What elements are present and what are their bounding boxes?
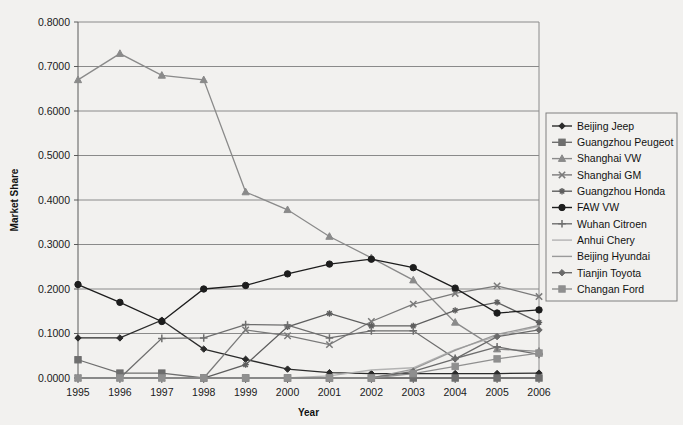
x-tick-label: 2004: [444, 386, 468, 398]
data-point: [494, 299, 500, 305]
series-layer: [74, 50, 543, 382]
y-tick-label: 0.2000: [38, 283, 70, 295]
data-point: [74, 76, 81, 83]
data-point: [452, 375, 458, 381]
data-point: [159, 375, 165, 381]
x-tick-label: 1997: [150, 386, 174, 398]
y-tick-label: 0.4000: [38, 194, 70, 206]
data-point: [368, 256, 374, 262]
x-axis-title: Year: [298, 407, 319, 418]
y-axis-title: Market Share: [9, 168, 20, 231]
legend-label: Beijing Hyundai: [577, 250, 650, 262]
series-line: [78, 320, 539, 373]
y-tick-label: 0.5000: [38, 149, 70, 161]
data-point: [284, 271, 290, 277]
market-share-line-chart: 0.00000.10000.20000.30000.40000.50000.60…: [0, 0, 683, 425]
legend-marker: [559, 286, 565, 292]
data-point: [117, 299, 123, 305]
legend-label: Tianjin Toyota: [577, 267, 641, 279]
data-point: [536, 375, 542, 381]
x-tick-label: 2006: [527, 386, 551, 398]
data-point: [201, 286, 207, 292]
data-point: [75, 375, 81, 381]
y-tick-label: 0.1000: [38, 327, 70, 339]
data-point: [326, 261, 332, 267]
legend-label: Changan Ford: [577, 283, 644, 295]
x-tick-label: 2005: [485, 386, 509, 398]
x-tick-label: 1998: [192, 386, 216, 398]
x-tick-label: 2003: [402, 386, 426, 398]
y-tick-label: 0.3000: [38, 238, 70, 250]
data-point: [75, 335, 81, 341]
legend-label: Shanghai VW: [577, 152, 641, 164]
legend-label: Guangzhou Honda: [577, 185, 665, 197]
x-tick-label: 2000: [276, 386, 300, 398]
data-point: [326, 375, 332, 381]
data-point: [116, 50, 123, 57]
data-point: [201, 375, 207, 381]
data-point: [284, 375, 290, 381]
data-point: [494, 356, 500, 362]
data-point: [326, 233, 333, 240]
y-tick-label: 0.7000: [38, 60, 70, 72]
data-point: [284, 321, 292, 329]
data-point: [410, 370, 416, 376]
data-point: [326, 334, 334, 342]
legend-marker: [559, 204, 565, 210]
series-beijing-jeep: [75, 317, 542, 377]
data-point: [117, 335, 123, 341]
x-tick-label: 1995: [66, 386, 90, 398]
legend-label: Guangzhou Peugeot: [577, 136, 673, 148]
legend: Beijing JeepGuangzhou PeugeotShanghai VW…: [546, 113, 677, 301]
x-axis: 1995199619971998199920002001200220032004…: [66, 378, 551, 398]
data-point: [242, 375, 248, 381]
y-axis: 0.00000.10000.20000.30000.40000.50000.60…: [38, 16, 78, 384]
data-point: [75, 357, 81, 363]
data-point: [242, 188, 249, 195]
data-point: [284, 366, 290, 372]
legend-label: Beijing Jeep: [577, 120, 634, 132]
data-point: [410, 264, 416, 270]
legend-label: Wuhan Citroen: [577, 218, 647, 230]
legend-label: Shanghai GM: [577, 169, 641, 181]
data-point: [410, 276, 417, 283]
y-tick-label: 0.8000: [38, 16, 70, 28]
x-tick-label: 1996: [108, 386, 132, 398]
data-point: [368, 375, 374, 381]
y-tick-label: 0.6000: [38, 105, 70, 117]
data-point: [159, 318, 165, 324]
data-point: [536, 327, 542, 333]
data-point: [242, 282, 248, 288]
data-point: [536, 350, 542, 356]
series-line: [78, 54, 539, 352]
data-point: [494, 375, 500, 381]
series-line: [78, 360, 539, 378]
data-point: [452, 307, 458, 313]
data-point: [158, 72, 165, 79]
x-tick-label: 1999: [234, 386, 258, 398]
data-point: [200, 334, 208, 342]
x-tick-label: 2001: [318, 386, 342, 398]
data-point: [452, 285, 458, 291]
legend-label: FAW VW: [577, 201, 619, 213]
legend-label: Anhui Chery: [577, 234, 636, 246]
legend-marker: [559, 139, 565, 145]
data-point: [117, 375, 123, 381]
data-point: [536, 319, 542, 325]
y-tick-label: 0.0000: [38, 372, 70, 384]
gridlines: [78, 22, 539, 378]
chart-container: 0.00000.10000.20000.30000.40000.50000.60…: [0, 0, 683, 425]
series-shanghai-vw: [74, 50, 542, 354]
data-point: [452, 363, 458, 369]
data-point: [494, 310, 500, 316]
data-point: [536, 307, 542, 313]
data-point: [75, 281, 81, 287]
data-point: [326, 310, 332, 316]
series-line: [78, 353, 539, 378]
x-tick-label: 2002: [360, 386, 384, 398]
